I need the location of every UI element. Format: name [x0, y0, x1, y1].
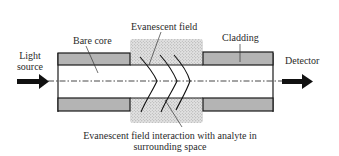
interaction-caption-line2: surrounding space	[60, 141, 280, 152]
light-source-label-line1: Light	[10, 50, 50, 61]
evanescent-field-label: Evanescent field	[131, 21, 197, 32]
light-source-label-line2: source	[10, 61, 50, 72]
interaction-caption: Evanescent field interaction with analyt…	[60, 130, 280, 152]
interaction-caption-line1: Evanescent field interaction with analyt…	[60, 130, 280, 141]
light-source-label: Light source	[10, 50, 50, 72]
bare-core-label: Bare core	[73, 35, 112, 46]
cladding-label: Cladding	[222, 32, 259, 43]
light-source-arrow-icon	[17, 74, 49, 89]
detector-arrow-icon	[282, 74, 313, 89]
detector-label: Detector	[285, 55, 319, 66]
